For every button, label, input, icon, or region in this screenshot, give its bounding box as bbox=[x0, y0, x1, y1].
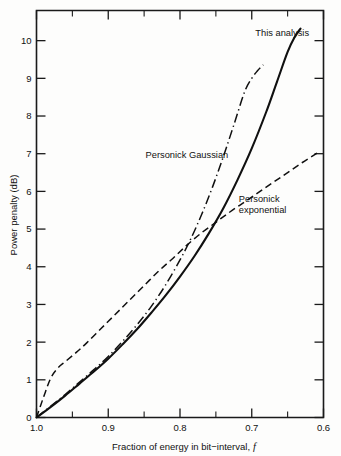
y-tick-label: 3 bbox=[26, 299, 31, 310]
chart-svg: 012345678910 1.00.90.80.70.6 This analys… bbox=[0, 0, 341, 456]
series-label-personick-exponential-line1: Personick bbox=[239, 194, 280, 204]
y-tick-label: 1 bbox=[26, 374, 31, 385]
x-axis-tick-labels: 1.00.90.80.70.6 bbox=[30, 422, 330, 433]
series-label-personick-exponential-line2: exponential bbox=[239, 205, 287, 215]
series-curve-dashed bbox=[37, 151, 321, 417]
y-tick-label: 4 bbox=[26, 261, 31, 272]
series-curve-solid bbox=[37, 29, 301, 418]
series-annotations: This analysisPersonick GaussianPersonick… bbox=[146, 28, 310, 215]
series-curve-dashdot bbox=[37, 65, 264, 418]
y-axis-tick-labels: 012345678910 bbox=[21, 35, 32, 423]
x-tick-label: 0.6 bbox=[317, 422, 330, 433]
y-tick-label: 7 bbox=[26, 148, 31, 159]
x-axis-symbol: f bbox=[253, 441, 258, 452]
y-axis-title: Power penalty (dB) bbox=[8, 175, 19, 256]
data-curves bbox=[37, 29, 321, 418]
x-tick-label: 0.7 bbox=[245, 422, 258, 433]
x-axis-title: Fraction of energy in bit−interval, bbox=[112, 441, 250, 452]
series-label-personick-gaussian: Personick Gaussian bbox=[146, 150, 229, 160]
series-label-this-analysis: This analysis bbox=[255, 28, 309, 38]
y-tick-label: 9 bbox=[26, 73, 31, 84]
y-tick-label: 10 bbox=[21, 35, 32, 46]
chart-figure: 012345678910 1.00.90.80.70.6 This analys… bbox=[0, 0, 341, 456]
x-tick-label: 0.8 bbox=[173, 422, 186, 433]
y-tick-label: 8 bbox=[26, 110, 31, 121]
y-axis-ticks bbox=[37, 41, 324, 418]
x-tick-label: 1.0 bbox=[30, 422, 43, 433]
x-tick-label: 0.9 bbox=[102, 422, 115, 433]
y-tick-label: 2 bbox=[26, 337, 31, 348]
y-tick-label: 5 bbox=[26, 223, 31, 234]
y-tick-label: 6 bbox=[26, 186, 31, 197]
